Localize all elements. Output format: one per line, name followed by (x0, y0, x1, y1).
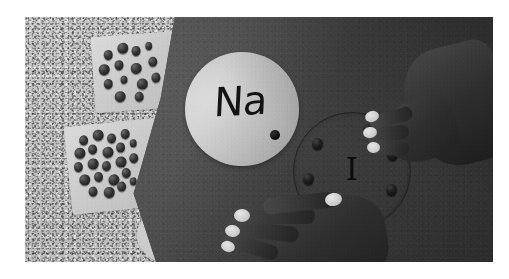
bead (79, 135, 89, 146)
bead (98, 64, 110, 76)
bead (116, 142, 126, 153)
photograph: Na I (25, 17, 493, 262)
bead (101, 161, 111, 172)
bead (92, 129, 104, 141)
bead (88, 186, 98, 197)
bead (120, 129, 130, 140)
screenshot-stage: Na I (0, 0, 509, 279)
bead (74, 147, 86, 159)
bead (129, 177, 137, 186)
bead (145, 42, 153, 50)
bead (102, 146, 114, 158)
bead (88, 144, 98, 155)
iodine-valence-electron-dot (303, 173, 314, 185)
left-hand (221, 185, 391, 262)
bead (103, 50, 113, 61)
bead (134, 92, 144, 103)
bead (131, 46, 141, 57)
bead (148, 56, 158, 67)
bead (79, 174, 91, 186)
bead (115, 156, 127, 168)
bead (114, 60, 124, 71)
bead (130, 63, 142, 75)
bead (103, 186, 115, 198)
sodium-valence-electron-dot (270, 130, 280, 140)
bead (103, 79, 113, 90)
bead (129, 139, 137, 148)
bead (121, 168, 131, 179)
bead (114, 91, 126, 103)
left-hand-fingernail (234, 209, 250, 222)
right-hand (377, 45, 493, 195)
bead (120, 76, 128, 84)
iodine-valence-electron-dot (312, 138, 323, 150)
bead (117, 181, 127, 192)
sodium-symbol-label: Na (213, 77, 268, 126)
bead (94, 172, 104, 183)
bead (117, 42, 129, 54)
iodine-symbol-label: I (346, 154, 358, 185)
bead (136, 78, 148, 90)
bead (87, 158, 99, 170)
sodium-element-circle: Na (185, 52, 299, 166)
bead (107, 133, 117, 144)
bead (129, 153, 139, 164)
bead (73, 162, 83, 173)
bead (151, 72, 161, 83)
